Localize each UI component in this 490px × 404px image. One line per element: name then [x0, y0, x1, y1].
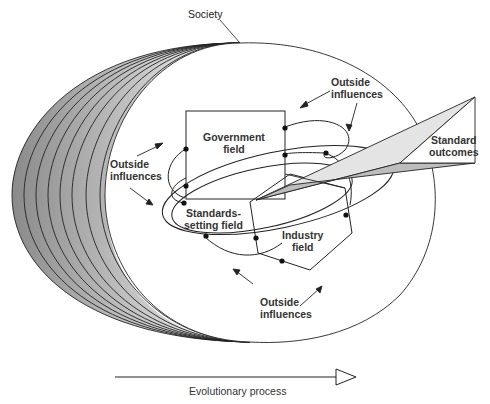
outside-influences-bottom-label: Outside influences	[260, 296, 312, 320]
standards-setting-field-label: Standards- setting field	[184, 207, 243, 231]
evolutionary-process-label: Evolutionary process	[189, 385, 286, 397]
industry-field-label: Industry field	[282, 229, 323, 253]
outside-influences-top-label: Outside influences	[331, 76, 383, 100]
outside-influences-left-label: Outside influences	[110, 158, 162, 182]
evolutionary-process-arrow	[115, 369, 356, 385]
diagram-canvas	[0, 0, 490, 404]
society-label: Society	[188, 8, 222, 20]
standard-outcomes-label: Standard outcomes	[429, 134, 479, 158]
society-leader-line	[220, 20, 240, 43]
government-field-label: Government field	[203, 131, 265, 155]
